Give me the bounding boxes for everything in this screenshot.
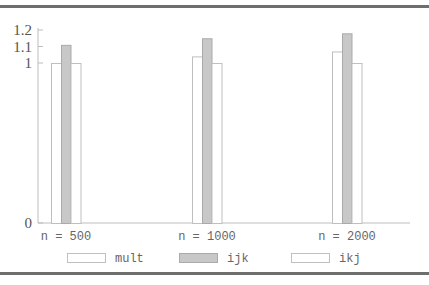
bar-ikj	[212, 64, 222, 224]
category-label: n = 500	[41, 230, 91, 244]
y-tick-label: 1	[25, 55, 33, 71]
bar-ijk	[62, 45, 72, 223]
bar-ikj	[71, 64, 81, 224]
legend-swatch-ijk	[180, 254, 218, 263]
legend-label-ijk: ijk	[227, 252, 249, 266]
bar-chart: 011.11.2n = 500n = 1000n = 2000multijkik…	[0, 0, 429, 285]
bar-mult	[333, 52, 343, 224]
bar-ijk	[203, 39, 213, 224]
bar-ikj	[352, 64, 362, 224]
legend-swatch-mult	[68, 254, 106, 263]
y-tick-label: 1.1	[13, 39, 32, 55]
bar-mult	[193, 57, 203, 224]
y-tick-label: 0	[25, 215, 33, 231]
category-label: n = 1000	[178, 230, 236, 244]
legend-swatch-ikj	[292, 254, 330, 263]
bar-ijk	[343, 34, 353, 224]
legend-label-mult: mult	[115, 252, 144, 266]
category-label: n = 2000	[318, 230, 376, 244]
bar-mult	[52, 64, 62, 224]
y-tick-label: 1.2	[13, 22, 32, 38]
legend-label-ikj: ikj	[339, 252, 361, 266]
